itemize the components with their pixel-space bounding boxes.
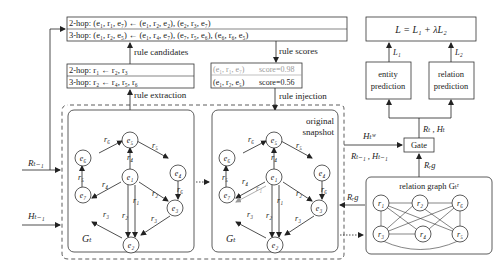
rule-2hop: 2-hop: r₁ ← r₂, r₃	[69, 65, 128, 75]
Rrg-left-label: Rᵣg	[346, 192, 359, 202]
edge-label: r₄	[127, 153, 133, 162]
rule-scores-box: (e₁, r₁, e₇) score=0.98 (e₁, r₂, e₅) sco…	[211, 63, 302, 88]
node-e3: e₃	[316, 204, 323, 213]
loss-formula: L = L₁ + λL₂	[394, 24, 447, 35]
relation-prediction-label: relation	[438, 69, 465, 79]
edge-label: r₄	[271, 153, 277, 162]
node-e3: e₃	[172, 204, 179, 213]
gate-label: Gate	[411, 140, 427, 150]
rule-scores-label: rule scores	[279, 46, 318, 56]
rule-injection-label: rule injection	[279, 91, 327, 101]
node-e5: e₅	[127, 136, 134, 145]
rel-node-r4: r₄	[420, 230, 426, 239]
graph-label-right: Gₜ	[226, 233, 236, 244]
edge-label: r₃	[151, 214, 157, 223]
edge-label: r₃	[103, 210, 109, 219]
framework-diagram: 2-hop: (e₁, r₁, e₇) ← (e₁, r₂, e₂), (e₂,…	[0, 0, 496, 272]
Rrg-up-label: Rᵣg	[423, 160, 436, 170]
rule-candidate-3hop: 3-hop: (e₁, r₂, e₅) ← (e₁, r₄, e₇), (e₇,…	[69, 30, 248, 40]
edge-label: r₆	[104, 135, 110, 144]
edge-label: r₃	[295, 214, 301, 223]
gate-box: Gate	[404, 138, 434, 152]
node-e6: e₆	[80, 154, 87, 163]
score-value-1: score=0.98	[259, 65, 294, 74]
edge-label: r₆	[321, 185, 327, 194]
L2-label: L₂	[454, 47, 463, 57]
rel-node-r5: r₅	[457, 230, 463, 239]
node-e1: e₁	[127, 173, 134, 182]
edge-label: r₅	[222, 173, 228, 182]
relation-prediction-label: prediction	[434, 81, 469, 91]
edge-label: r₅	[152, 141, 158, 150]
node-e7: e₇	[224, 191, 231, 200]
edge-label: r₄	[102, 180, 108, 189]
rel-node-r6: r₆	[457, 199, 463, 208]
score-triple-1: (e₁, r₁, e₇)	[213, 65, 245, 74]
edge-label: r₂	[296, 189, 302, 198]
edge-label: r₂	[266, 211, 272, 220]
node-e7: e₇	[80, 191, 87, 200]
rel-node-r2: r₂	[417, 199, 423, 208]
edge-label: r₁	[277, 196, 283, 205]
edge-label: r₂	[122, 211, 128, 220]
H-prev-label: Hₜ₋₁	[27, 211, 45, 221]
relation-graph: relation graph Gₜʳ r₁ r₂ r₆	[366, 177, 492, 254]
node-e4: e₄	[175, 169, 182, 178]
edge-label: r₅	[296, 141, 302, 150]
R-prev-label: Rₜ₋₁	[27, 158, 44, 168]
entity-prediction-label: entity	[378, 69, 398, 79]
relation-graph-title: relation graph Gₜʳ	[399, 181, 459, 191]
edge-label-injected: r₁	[256, 184, 262, 193]
edge-label: r₂	[152, 189, 158, 198]
R-H-prev-label: Rₜ₋₁ , Hₜ₋₁	[350, 151, 388, 161]
left-snapshot-graph: e₁ e₂ e₃ e₄ e₅ e₆ e₇ r₆ r₅ r₄ r₆ r₅ r₄ r…	[68, 110, 194, 253]
edge-label: r₃	[247, 210, 253, 219]
right-snapshot-graph: original snapshot e₁ e₂	[212, 110, 338, 253]
original-snapshot-label-1: original	[306, 116, 334, 126]
rules-box: 2-hop: r₁ ← r₂, r₃ 3-hop: r₂ ← r₄, r₅, r…	[67, 64, 194, 88]
edge-label: r₄	[242, 177, 248, 186]
rule-3hop: 3-hop: r₂ ← r₄, r₅, r₆	[69, 77, 138, 87]
score-triple-2: (e₁, r₂, e₅)	[213, 78, 245, 87]
Hw-label: Hₜʷ	[362, 131, 376, 141]
loss-box: L = L₁ + λL₂	[366, 17, 476, 41]
node-e1: e₁	[271, 173, 278, 182]
rule-candidates-box: 2-hop: (e₁, r₁, e₇) ← (e₁, r₂, e₂), (e₂,…	[67, 17, 347, 41]
edge-label: r₆	[177, 185, 183, 194]
R-H-t-label: Rₜ , Hₜ	[422, 124, 446, 134]
graph-label-left: Gₜ	[82, 233, 92, 244]
node-e2: e₂	[272, 241, 279, 250]
entity-prediction-label: prediction	[371, 81, 406, 91]
node-e6: e₆	[224, 154, 231, 163]
rule-candidates-label: rule candidates	[134, 47, 189, 57]
edge-label: r₁	[133, 196, 139, 205]
score-value-2: score=0.56	[259, 78, 294, 87]
original-snapshot-label-2: snapshot	[303, 127, 335, 137]
node-e2: e₂	[128, 241, 135, 250]
node-e5: e₅	[271, 136, 278, 145]
feedback-arrow	[50, 29, 65, 157]
entity-prediction-box: entity prediction	[366, 62, 411, 99]
rule-candidate-2hop: 2-hop: (e₁, r₁, e₇) ← (e₁, r₂, e₂), (e₂,…	[69, 18, 211, 28]
L1-label: L₁	[392, 47, 401, 57]
rel-node-r1: r₁	[378, 199, 384, 208]
node-e4: e₄	[319, 169, 326, 178]
rel-node-r3: r₃	[378, 230, 384, 239]
rule-extraction-label: rule extraction	[134, 90, 187, 100]
relation-prediction-box: relation prediction	[429, 62, 474, 99]
edge-label: r₆	[248, 135, 254, 144]
edge-label: r₅	[78, 173, 84, 182]
